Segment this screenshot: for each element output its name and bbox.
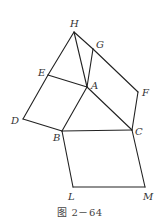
point-label-m: M <box>142 191 154 202</box>
point-label-h: H <box>69 18 79 29</box>
segment-bl <box>62 131 73 187</box>
segment-hg <box>74 32 93 49</box>
segment-db <box>23 119 62 131</box>
segment-ed <box>23 75 48 119</box>
point-label-a: A <box>90 80 98 91</box>
segment-ab <box>62 87 87 131</box>
segment-ha <box>74 32 87 87</box>
point-label-g: G <box>96 39 104 50</box>
point-label-c: C <box>135 126 143 137</box>
segment-mc <box>132 130 145 187</box>
point-label-e: E <box>37 67 46 78</box>
segment-fc <box>132 92 138 130</box>
figure-point-labels: HGEAFDBCLM <box>10 18 154 202</box>
segment-ac <box>87 87 132 130</box>
point-label-f: F <box>141 87 150 98</box>
figure-segments <box>23 32 145 187</box>
segment-bc <box>62 130 132 131</box>
point-label-d: D <box>10 115 19 126</box>
geometry-figure: HGEAFDBCLM <box>0 0 165 224</box>
point-label-b: B <box>52 132 60 143</box>
segment-ea <box>48 75 87 87</box>
point-label-l: L <box>67 191 75 202</box>
figure-caption: 图 2－64 <box>0 204 160 219</box>
segment-he <box>48 32 74 75</box>
segment-gf <box>93 49 138 92</box>
